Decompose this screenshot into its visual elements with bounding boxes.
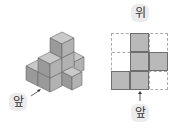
grid-cell-r0-c1 <box>130 33 149 52</box>
grid-cell-r1-c1 <box>130 52 149 71</box>
front-label-left: 앞 <box>9 93 27 111</box>
top-view-label: 위 <box>131 4 149 22</box>
grid-cell-r2-c1 <box>130 71 149 90</box>
grid-cell-r1-c2 <box>149 52 168 71</box>
grid-cell-r2-c0 <box>111 71 130 90</box>
front-label-right: 앞 <box>131 104 149 122</box>
